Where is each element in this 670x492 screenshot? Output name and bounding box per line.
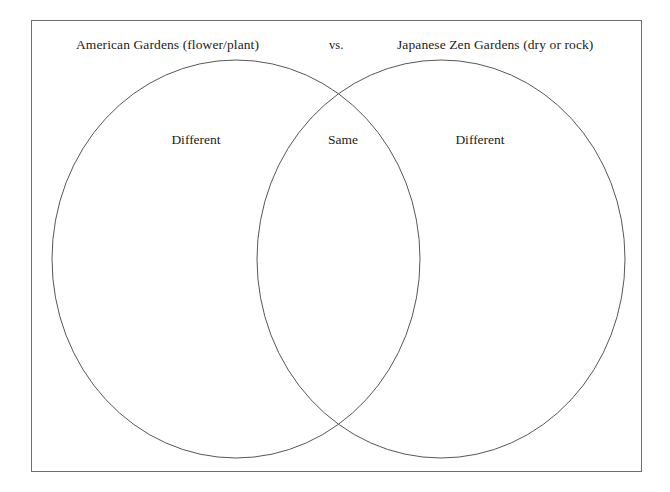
right-region-label: Different bbox=[430, 133, 530, 147]
venn-diagram-canvas: American Gardens (flower/plant) vs. Japa… bbox=[0, 0, 670, 492]
diagram-frame bbox=[31, 20, 642, 472]
left-circle-title: American Gardens (flower/plant) bbox=[76, 38, 259, 52]
overlap-region-label: Same bbox=[303, 133, 383, 147]
versus-connector: vs. bbox=[329, 39, 344, 52]
right-circle-title: Japanese Zen Gardens (dry or rock) bbox=[397, 38, 593, 52]
left-region-label: Different bbox=[146, 133, 246, 147]
